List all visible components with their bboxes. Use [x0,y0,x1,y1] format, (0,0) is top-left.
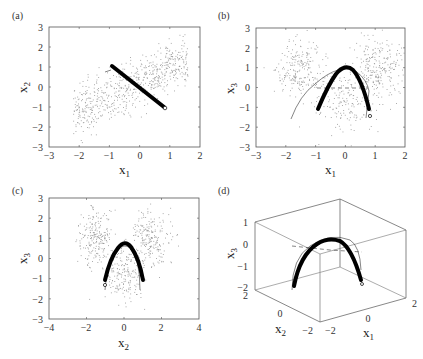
panel-b: (b) 3 2 1 0 −1 −2 −3 −3 −2 −1 0 1 2 x1 x… [218,10,408,179]
xtick: −1 [311,150,322,161]
end-marker-b [368,114,371,117]
ytick: 1 [38,62,43,73]
ytick: 0 [38,82,43,93]
ytick: 3 [245,23,250,34]
x2tick: 0 [278,308,283,319]
end-marker-c [103,283,106,286]
ytick: 3 [38,22,43,33]
xtick: 0 [138,150,143,161]
principal-curve-a [112,66,164,107]
ztick: 0 [243,239,248,250]
x3-axis-label-d: x3 [222,248,239,260]
ytick: 2 [245,43,250,54]
ticks-b [256,28,405,147]
axes-frame-c [49,198,199,319]
x-axis-label-c: x2 [118,335,129,352]
principal-curve-b [318,67,369,109]
ytick: 1 [245,62,250,73]
ytick: −3 [239,142,250,153]
ytick: −1 [32,102,43,113]
ztick: 1 [243,217,248,228]
ytick: 3 [38,193,43,204]
panel-label-d: (d) [218,185,230,197]
xtick: −4 [44,322,55,333]
ytick: −2 [32,122,43,133]
panel-c: (c) 3 2 1 0 −1 −2 −3 −4 −2 0 2 4 x2 x3 [12,185,202,352]
figure: (a) 3 2 1 0 −1 −2 −3 −3 −2 −1 0 1 2 x1 x… [0,0,423,359]
end-marker-a [163,106,167,110]
ytick: 2 [38,42,43,53]
x1tick: 2 [412,298,417,309]
ztick: −1 [237,261,248,272]
ytick: −1 [32,273,43,284]
axes-frame-a [49,27,200,147]
x-axis-label-b: x1 [325,162,336,179]
ytick: 0 [245,82,250,93]
ytick: −3 [32,142,43,153]
xtick: 1 [168,150,173,161]
ytick: −1 [239,102,250,113]
xtick: −2 [281,150,292,161]
ticks-a [49,27,200,147]
ytick: −3 [32,314,43,325]
panel-d: (d) 1 0 −1 −2 2 0 −2 −2 0 2 x1 x2 x3 [218,185,417,342]
ytick: −2 [32,294,43,305]
panel-label-b: (b) [218,10,230,22]
principal-curve-c [105,243,143,280]
xtick: 0 [122,322,127,333]
y-axis-label-a: x2 [15,82,32,93]
x1tick: −2 [325,325,336,336]
xtick: 0 [343,150,348,161]
scatter-points-c [76,204,179,310]
x2tick: 2 [243,290,248,301]
xtick: 2 [403,150,408,161]
xtick: −2 [81,322,92,333]
xtick: 1 [373,150,378,161]
x2tick: −2 [302,325,313,336]
x2-axis-label-d: x2 [275,321,286,338]
ticks-c [49,198,199,319]
xtick: −2 [74,150,85,161]
ytick: 2 [38,213,43,224]
xtick: 4 [197,322,202,333]
x1tick: 0 [366,313,371,324]
xtick: −1 [104,150,115,161]
ytick: −2 [239,122,250,133]
end-marker-d [361,283,364,286]
xtick: 2 [198,150,203,161]
y-axis-label-c: x3 [15,253,32,265]
ytick: 1 [38,233,43,244]
3d-box [255,199,406,322]
xtick: 2 [159,322,164,333]
scatter-points-a [73,34,188,143]
ytick: 0 [38,253,43,264]
panel-label-c: (c) [12,185,23,197]
xtick: −3 [44,150,55,161]
x-axis-label-a: x1 [119,162,130,179]
panel-label-a: (a) [12,10,23,22]
x1-axis-label-d: x1 [363,325,374,342]
y-axis-label-b: x3 [222,83,239,95]
panel-a: (a) 3 2 1 0 −1 −2 −3 −3 −2 −1 0 1 2 x1 x… [12,10,203,179]
xtick: −3 [251,150,262,161]
axes-frame-b [256,28,405,147]
